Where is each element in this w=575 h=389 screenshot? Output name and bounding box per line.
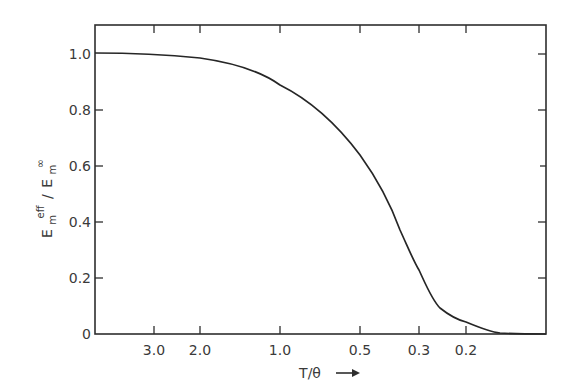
y-tick-label: 0.4 [69, 214, 91, 230]
y-tick-label: 1.0 [69, 46, 91, 62]
y-tick-label: 0 [82, 326, 91, 342]
x-axis-label: T/θ [298, 365, 321, 381]
y-label-numerator: E m eff / E m ∞ [31, 159, 59, 238]
x-tick-label: 0.3 [408, 342, 430, 358]
right-arrow-icon [336, 369, 360, 377]
y-tick-label: 0.2 [69, 270, 91, 286]
x-tick-label: 3.0 [143, 342, 165, 358]
x-tick-labels: 3.0 2.0 1.0 0.5 0.3 0.2 [143, 342, 477, 358]
y-ticks-right [538, 54, 546, 278]
y-tick-label: 0.6 [69, 158, 91, 174]
x-tick-label: 1.0 [269, 342, 291, 358]
y-tick-labels: 0 0.2 0.4 0.6 0.8 1.0 [69, 46, 91, 342]
x-ticks-top [154, 25, 466, 33]
x-tick-label: 0.2 [455, 342, 477, 358]
x-axis-title: T/θ [298, 365, 360, 381]
plot-frame [95, 25, 546, 334]
chart: 0 0.2 0.4 0.6 0.8 1.0 3.0 2.0 1.0 0.5 0.… [0, 0, 575, 389]
y-tick-label: 0.8 [69, 102, 91, 118]
x-tick-label: 0.5 [349, 342, 371, 358]
x-tick-label: 2.0 [189, 342, 211, 358]
data-curve [95, 53, 546, 334]
x-ticks-bottom [154, 326, 466, 334]
y-ticks-left [95, 110, 103, 278]
y-axis-title: E m eff / E m ∞ [31, 159, 59, 238]
